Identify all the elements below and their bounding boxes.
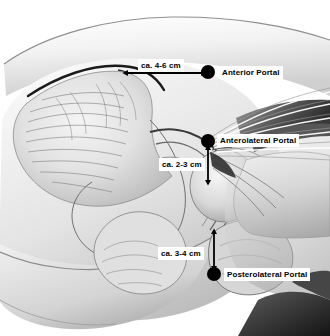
hip-arthroscopy-portal-figure: ca. 4-6 cm Anterior Portal Anterolateral… bbox=[0, 0, 330, 336]
posterolateral-distance-label: ca. 3-4 cm bbox=[158, 247, 204, 260]
posterolateral-portal-label: Posterolateral Portal bbox=[224, 268, 310, 281]
anterior-portal-label: Anterior Portal bbox=[219, 66, 283, 79]
annotation-layer: ca. 4-6 cm Anterior Portal Anterolateral… bbox=[0, 0, 330, 336]
anterolateral-portal-label: Anterolateral Portal bbox=[217, 134, 299, 147]
anterior-distance-label: ca. 4-6 cm bbox=[138, 59, 184, 72]
anterolateral-distance-label: ca. 2-3 cm bbox=[159, 158, 205, 171]
